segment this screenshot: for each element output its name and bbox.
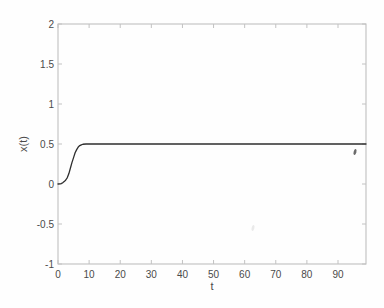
x-axis-label: t — [210, 280, 213, 292]
chart-canvas: 0102030405060708090-1-0.500.511.52 t x(t… — [0, 0, 384, 308]
x-tick-label: 70 — [270, 269, 282, 280]
y-tick-label: 0.5 — [40, 139, 54, 150]
x-tick-label: 60 — [239, 269, 251, 280]
dark-speck — [353, 149, 357, 155]
y-tick-label: 2 — [48, 19, 54, 30]
y-axis-label: x(t) — [17, 136, 29, 152]
x-tick-label: 40 — [177, 269, 189, 280]
y-tick-label: 1.5 — [40, 59, 54, 70]
line-series-group — [58, 144, 366, 184]
y-tick-label: -0.5 — [37, 219, 55, 230]
x-tick-label: 30 — [146, 269, 158, 280]
x-tick-label: 90 — [332, 269, 344, 280]
y-tick-label: 0 — [48, 179, 54, 190]
scan-artifacts — [251, 149, 357, 231]
x-tick-label: 0 — [55, 269, 61, 280]
faint-smudge — [251, 225, 255, 231]
matlab-figure: 0102030405060708090-1-0.500.511.52 t x(t… — [0, 0, 384, 308]
x-tick-label: 10 — [84, 269, 96, 280]
axis-tick-labels: 0102030405060708090-1-0.500.511.52 — [37, 19, 344, 281]
y-tick-label: -1 — [45, 259, 54, 270]
y-tick-label: 1 — [48, 99, 54, 110]
x-tick-label: 50 — [208, 269, 220, 280]
x-tick-label: 20 — [115, 269, 127, 280]
series-line — [58, 144, 366, 184]
x-tick-label: 80 — [301, 269, 313, 280]
